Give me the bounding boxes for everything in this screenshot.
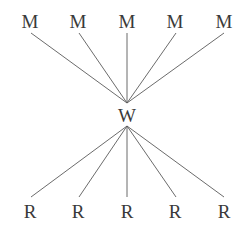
node-top-4: M [167,12,184,31]
node-top-1: M [22,12,39,31]
node-bottom-3: R [121,202,134,221]
node-top-3: M [119,12,136,31]
edge-w-r5 [127,126,224,197]
node-top-5: M [216,12,233,31]
node-bottom-1: R [24,202,37,221]
node-top-2: M [70,12,87,31]
node-bottom-5: R [218,202,231,221]
node-center: W [118,106,136,125]
edge-m2-w [79,33,127,103]
edge-w-r1 [31,126,127,197]
edge-m1-w [31,33,127,103]
edge-w-r2 [79,126,127,197]
edge-m5-w [127,33,224,103]
edge-w-r4 [127,126,176,197]
edge-m4-w [127,33,176,103]
node-bottom-2: R [72,202,85,221]
node-bottom-4: R [169,202,182,221]
